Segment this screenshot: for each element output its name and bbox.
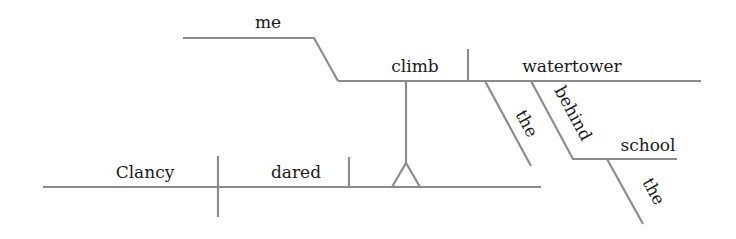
indirect-object-word: me [255,12,281,32]
article-school-word: the [639,174,670,208]
article-school-line [607,159,643,224]
pedestal [392,163,420,187]
sentence-diagram: Clancy dared me climb watertower the beh… [0,0,736,239]
infinitive-object-word: watertower [522,56,622,76]
preposition-word: behind [550,82,596,144]
indirect-object-line [183,38,338,81]
article-watertower-word: the [511,106,542,140]
prep-object-word: school [620,135,675,155]
verb-word: dared [271,162,321,182]
infinitive-verb-word: climb [391,56,439,76]
subject-word: Clancy [116,162,175,182]
